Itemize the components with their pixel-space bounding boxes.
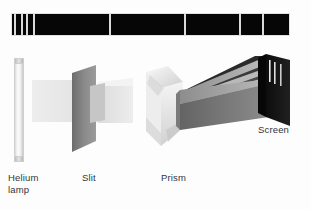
dispersion-fan-left-edge [176, 90, 180, 130]
label-helium-lamp: Helium lamp [8, 172, 38, 195]
screen-spectral-line-1 [269, 60, 271, 82]
screen-panel-edge [258, 54, 266, 117]
label-screen: Screen [258, 124, 289, 136]
slit-aperture [90, 83, 105, 123]
screen-spectral-line-3 [280, 64, 282, 86]
scene-geometry-layer [0, 0, 311, 209]
optics-diagram: Helium lamp Slit Prism Screen [0, 0, 311, 209]
label-slit: Slit [82, 172, 96, 184]
screen-spectral-line-2 [274, 62, 276, 84]
label-prism: Prism [161, 172, 186, 184]
